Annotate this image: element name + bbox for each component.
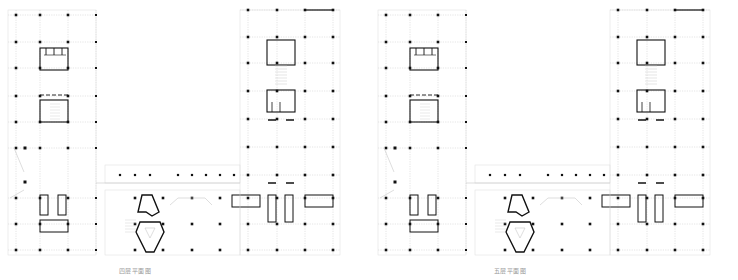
floor-plan-5 [370, 0, 738, 280]
floor-plan-caption: 五层平面图 [470, 266, 550, 275]
floor-plan-drawing [0, 0, 369, 260]
floor-plan-caption: 四层平面图 [95, 266, 175, 275]
floor-plan-drawing [370, 0, 738, 260]
floor-plan-4 [0, 0, 369, 280]
